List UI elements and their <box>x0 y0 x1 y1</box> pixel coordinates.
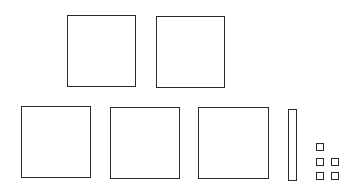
unit-cube-block <box>316 172 324 180</box>
unit-cube-block <box>316 158 324 166</box>
unit-cube-block <box>331 158 339 166</box>
hundred-flat-block <box>21 106 91 178</box>
unit-cube-block <box>316 143 324 151</box>
hundred-flat-block <box>110 107 180 179</box>
ten-rod-block <box>288 109 297 181</box>
hundred-flat-block <box>67 15 136 87</box>
hundred-flat-block <box>198 107 269 179</box>
unit-cube-block <box>331 172 339 180</box>
hundred-flat-block <box>156 16 225 88</box>
